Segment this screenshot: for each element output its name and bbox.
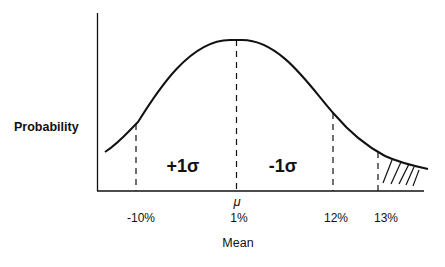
minus-sigma-label: -1σ	[269, 156, 297, 177]
tick-label-12: 12%	[324, 211, 348, 225]
x-axis-label: Mean	[222, 236, 253, 250]
plus-sigma-label: +1σ	[167, 156, 200, 177]
tick-label-13: 13%	[374, 211, 398, 225]
tick-label-neg10: -10%	[127, 211, 155, 225]
mean-mu-label: μ	[233, 194, 240, 209]
tick-label-1: 1%	[230, 211, 247, 225]
y-axis-label: Probability	[14, 120, 79, 134]
distribution-curve	[105, 40, 428, 169]
tail-hatching	[383, 160, 419, 186]
